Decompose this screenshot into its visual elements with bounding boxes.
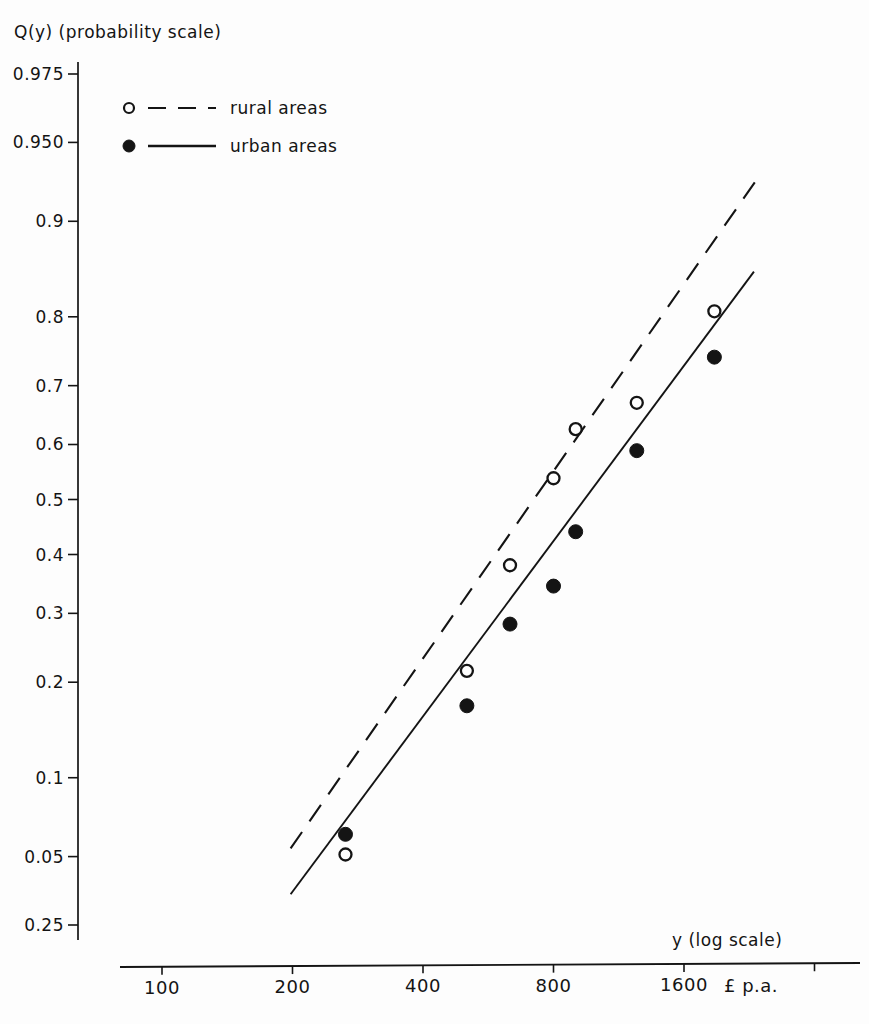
data-point-rural: [339, 849, 351, 861]
legend-symbols: [123, 103, 216, 152]
y-tick-label: 0.7: [0, 376, 64, 396]
x-tick-label: 200: [275, 976, 311, 997]
x-tick-label: 100: [144, 977, 180, 998]
fit-lines: [291, 182, 755, 894]
fit-line-rural: [291, 182, 755, 848]
data-point-rural: [708, 305, 720, 317]
data-point-urban: [503, 617, 517, 631]
data-point-rural: [548, 472, 560, 484]
y-tick-label: 0.25: [0, 915, 64, 935]
x-tick-label: 800: [536, 975, 572, 996]
data-point-urban: [338, 827, 352, 841]
y-tick-label: 0.2: [0, 672, 64, 692]
x-tick-label: 1600: [660, 974, 708, 995]
y-tick-label: 0.4: [0, 545, 64, 565]
y-tick-label: 0.3: [0, 603, 64, 623]
data-point-urban: [547, 579, 561, 593]
data-point-urban: [569, 525, 583, 539]
legend-label-rural: rural areas: [230, 98, 328, 118]
data-point-urban: [707, 350, 721, 364]
x-axis-unit-label: £ p.a.: [724, 975, 778, 996]
y-tick-label: 0.950: [0, 132, 64, 152]
fit-line-urban: [291, 272, 754, 895]
y-axis-ticks: [68, 74, 78, 925]
y-tick-label: 0.8: [0, 307, 64, 327]
data-point-urban: [460, 699, 474, 713]
y-tick-label: 0.6: [0, 434, 64, 454]
x-axis-title: y (log scale): [672, 930, 782, 950]
legend-marker-urban: [123, 140, 135, 152]
data-points: [338, 305, 721, 860]
data-point-rural: [570, 423, 582, 435]
chart-figure: Q(y) (probability scale) y (log scale) £…: [0, 0, 869, 1024]
data-point-rural: [504, 559, 516, 571]
y-tick-label: 0.5: [0, 490, 64, 510]
x-tick-label: 400: [405, 975, 441, 996]
y-tick-label: 0.1: [0, 768, 64, 788]
legend-marker-rural: [124, 103, 134, 113]
y-tick-label: 0.9: [0, 211, 64, 231]
y-tick-label: 0.975: [0, 64, 64, 84]
plot-canvas: [0, 0, 869, 1024]
data-point-urban: [630, 444, 644, 458]
legend-label-urban: urban areas: [230, 136, 337, 156]
y-axis-title: Q(y) (probability scale): [14, 22, 221, 42]
data-point-rural: [631, 397, 643, 409]
y-tick-label: 0.05: [0, 847, 64, 867]
data-point-rural: [461, 665, 473, 677]
x-axis-line: [120, 963, 860, 967]
axis-lines: [78, 62, 860, 967]
